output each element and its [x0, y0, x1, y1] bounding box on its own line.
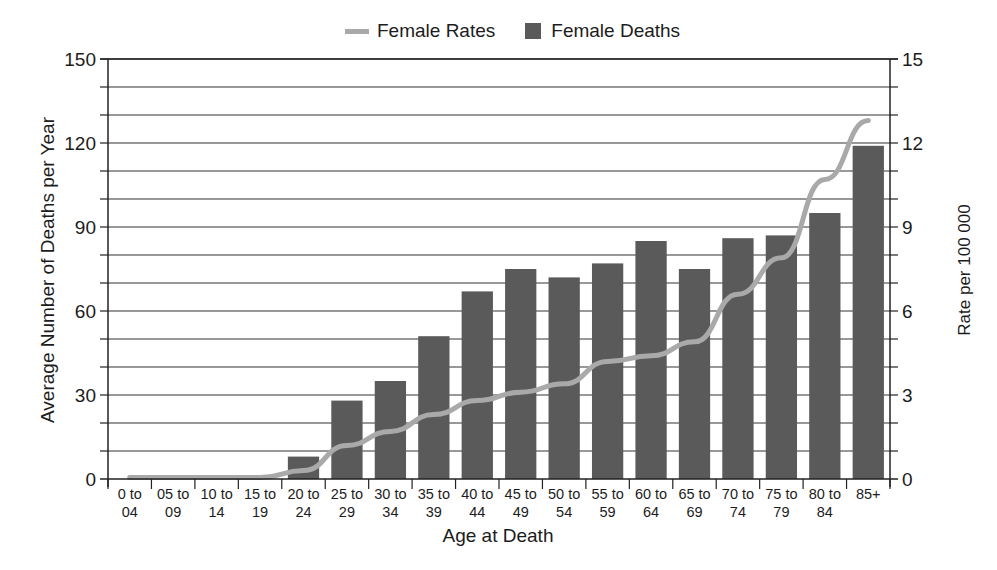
- bar-80-to-84: [809, 213, 840, 479]
- y-right-tick-label: 3: [902, 385, 913, 406]
- x-tick-label: 25 to: [331, 486, 363, 502]
- x-tick-label: 64: [643, 504, 659, 520]
- y-left-tick-label: 30: [75, 385, 96, 406]
- bar-40-to-44: [462, 291, 493, 479]
- x-tick-label: 45 to: [505, 486, 537, 502]
- x-tick-label: 54: [556, 504, 572, 520]
- x-tick-label: 75 to: [765, 486, 797, 502]
- x-tick-label: 14: [209, 504, 225, 520]
- x-tick-label: 55 to: [591, 486, 623, 502]
- x-tick-label: 29: [339, 504, 355, 520]
- y-axis-left-title: Average Number of Deaths per Year: [37, 117, 59, 423]
- y-right-tick-label: 15: [902, 49, 923, 70]
- bar-25-to-29: [331, 401, 362, 479]
- x-tick-label: 09: [165, 504, 181, 520]
- bar-85-: [853, 146, 884, 479]
- x-tick-label: 39: [426, 504, 442, 520]
- y-left-tick-label: 60: [75, 301, 96, 322]
- x-tick-label: 15 to: [244, 486, 276, 502]
- x-tick-label: 85+: [856, 486, 881, 502]
- x-tick-label: 20 to: [287, 486, 319, 502]
- x-tick-label: 80 to: [809, 486, 841, 502]
- x-tick-label: 60 to: [635, 486, 667, 502]
- y-left-tick-label: 150: [64, 49, 96, 70]
- x-tick-label: 24: [295, 504, 311, 520]
- x-tick-label: 19: [252, 504, 268, 520]
- y-axis-right-title: Rate per 100 000: [955, 204, 975, 335]
- x-tick-label: 34: [382, 504, 398, 520]
- x-tick-label: 74: [730, 504, 746, 520]
- x-axis-title: Age at Death: [443, 525, 554, 547]
- bar-35-to-39: [418, 336, 449, 479]
- chart-plot-area: 0306090120150036912150 to0405 to0910 to1…: [0, 0, 997, 570]
- x-tick-label: 35 to: [418, 486, 450, 502]
- cropped-caption-strip: [0, 560, 997, 570]
- x-tick-label: 40 to: [461, 486, 493, 502]
- x-tick-label: 65 to: [678, 486, 710, 502]
- x-tick-label: 0 to: [118, 486, 142, 502]
- x-tick-label: 79: [773, 504, 789, 520]
- bar-50-to-54: [549, 277, 580, 479]
- y-right-tick-label: 9: [902, 217, 913, 238]
- female-rates-line: [130, 121, 869, 478]
- y-left-tick-label: 0: [85, 469, 96, 490]
- bar-60-to-64: [635, 241, 666, 479]
- y-right-tick-label: 12: [902, 133, 923, 154]
- y-left-tick-label: 120: [64, 133, 96, 154]
- x-tick-label: 69: [686, 504, 702, 520]
- x-tick-label: 49: [513, 504, 529, 520]
- x-tick-label: 04: [122, 504, 138, 520]
- y-left-tick-label: 90: [75, 217, 96, 238]
- x-tick-label: 10 to: [200, 486, 232, 502]
- x-tick-label: 05 to: [157, 486, 189, 502]
- x-tick-label: 50 to: [548, 486, 580, 502]
- x-tick-label: 70 to: [722, 486, 754, 502]
- y-right-tick-label: 0: [902, 469, 913, 490]
- y-right-tick-label: 6: [902, 301, 913, 322]
- x-tick-label: 44: [469, 504, 485, 520]
- x-tick-label: 30 to: [374, 486, 406, 502]
- bar-75-to-79: [766, 235, 797, 479]
- bar-70-to-74: [722, 238, 753, 479]
- x-tick-label: 59: [600, 504, 616, 520]
- x-tick-label: 84: [817, 504, 833, 520]
- bar-55-to-59: [592, 263, 623, 479]
- bar-45-to-49: [505, 269, 536, 479]
- bar-65-to-69: [679, 269, 710, 479]
